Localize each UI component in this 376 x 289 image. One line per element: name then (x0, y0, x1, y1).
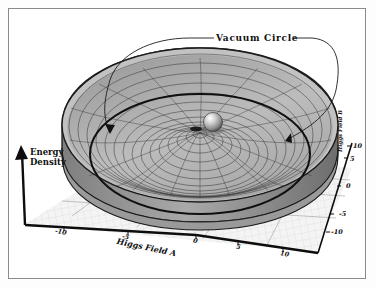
x-tick-2: 0 (192, 237, 198, 246)
x-tick-4: 10 (279, 249, 289, 259)
y-tick-0: 10 (353, 142, 362, 150)
vacuum-circle-label: Vacuum Circle (216, 33, 298, 43)
y-axis-label: Higgs Field B (337, 110, 343, 152)
potential-surface (62, 48, 338, 230)
figure-root: Vacuum Circle Energy Density Higgs Field… (0, 0, 376, 289)
y-tick-3: -5 (339, 210, 346, 218)
y-tick-2: 0 (346, 182, 351, 190)
energy-density-line1: Energy (30, 147, 66, 157)
higgs-potential-plot (0, 0, 376, 289)
y-tick-4: -10 (331, 228, 343, 236)
energy-axis-arrow (15, 145, 28, 225)
y-tick-1: 5 (350, 155, 355, 163)
x-tick-3: 5 (235, 243, 241, 252)
peak-marker (190, 126, 202, 131)
energy-density-line2: Density (30, 157, 66, 167)
x-tick-1: -5 (121, 232, 130, 241)
energy-density-label: Energy Density (30, 147, 66, 167)
ball (202, 113, 224, 136)
